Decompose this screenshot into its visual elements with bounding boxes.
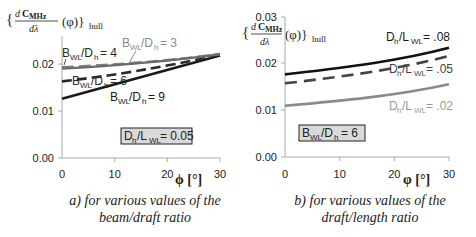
svg-text:WL: WL [411,37,424,46]
svg-text:WL: WL [414,69,427,78]
svg-text:h: h [142,97,146,106]
label-dh-lwl-02: D h /L WL = .02 [389,99,453,115]
chart-a: { d C MHz dλ (φ)} hull 0.02 0.01 0.00 0 … [6,8,226,187]
svg-text:B: B [72,74,80,88]
chart-a-xtick: 30 [214,168,226,180]
chart-b-annotation: B WL /D h = 6 [299,125,365,142]
chart-b-caption-line2: draft/length ratio [270,209,470,226]
chart-b-caption-line1: b) for various values of the [270,192,470,209]
chart-a-xtick: 0 [59,168,65,180]
chart-b-caption: b) for various values of the draft/lengt… [270,192,470,226]
svg-text:= .02: = .02 [426,99,453,113]
svg-text:B: B [62,46,70,60]
svg-text:= 9: = 9 [148,90,165,104]
svg-text:dλ: dλ [260,36,270,47]
svg-text:= .05: = .05 [426,62,453,76]
svg-text:= 6: = 6 [341,126,358,140]
svg-text:{: { [6,11,13,27]
chart-a-caption: a) for various values of the beam/draft … [40,192,250,226]
svg-text:= .08: = .08 [423,30,450,44]
svg-text:(φ)}: (φ)} [285,27,307,42]
svg-text:h: h [397,69,401,78]
svg-text:/L: /L [402,62,412,76]
chart-b: { d C MHz dλ (φ)} hull 0.03 0.02 0.01 0.… [242,11,455,187]
svg-text:h: h [104,81,108,90]
chart-a-xtick: 20 [161,168,173,180]
chart-a-xlabel: ϕ [°] [175,172,202,187]
chart-a-caption-line1: a) for various values of the [40,192,250,209]
chart-a-ytick: 0.00 [33,152,54,164]
svg-text:/D: /D [129,90,141,104]
chart-b-xtick: 10 [334,168,346,180]
chart-b-xtick: 30 [443,168,455,180]
svg-text:MHz: MHz [29,12,47,21]
chart-a-xtick: 10 [109,168,121,180]
svg-text:(φ)}: (φ)} [62,14,84,29]
chart-a-annotation: D h /L WL = 0.05 [121,128,194,145]
svg-text:= 4: = 4 [100,46,117,60]
chart-b-ytick: 0.02 [256,57,277,69]
svg-text:MHz: MHz [265,25,283,34]
label-dh-lwl-08: D h /L WL = .08 [386,30,450,46]
label-bwl-dh-9: B WL /D h = 9 [110,90,165,106]
svg-text:h: h [334,133,338,142]
chart-a-ytick: 0.01 [33,105,54,117]
chart-b-ytick: 0.01 [256,104,277,116]
svg-text:{: { [242,24,249,40]
svg-text:h: h [154,43,158,52]
label-bwl-dh-4: B WL /D h = 4 [62,46,117,62]
svg-text:= 6: = 6 [110,74,127,88]
chart-b-xtick: 20 [388,168,400,180]
svg-text:hull: hull [312,34,327,44]
svg-text:B: B [302,126,310,140]
svg-text:= 0.05: = 0.05 [160,129,194,143]
label-bwl-dh-6: B WL /D h = 6 [72,74,127,90]
svg-text:h: h [397,106,401,115]
chart-b-ylabel: { d C MHz dλ (φ)} hull [242,21,327,47]
chart-b-ytick: 0.00 [256,151,277,163]
chart-a-ylabel: { d C MHz dλ (φ)} hull [6,8,104,34]
label-dh-lwl-05: D h /L WL = .05 [389,62,453,78]
svg-text:hull: hull [89,21,104,31]
svg-text:/L: /L [402,99,412,113]
svg-text:h: h [132,136,136,145]
svg-text:h: h [94,53,98,62]
svg-text:/D: /D [141,36,153,50]
svg-text:d: d [15,8,21,19]
svg-text:B: B [110,90,118,104]
svg-text:/L: /L [399,30,409,44]
svg-text:/D: /D [321,126,333,140]
svg-text:WL: WL [414,106,427,115]
svg-text:= 3: = 3 [160,36,177,50]
series-dh-lwl-02 [285,84,449,106]
svg-text:h: h [394,37,398,46]
svg-text:B: B [122,36,130,50]
svg-text:/D: /D [91,74,103,88]
svg-text:/D: /D [81,46,93,60]
chart-b-xlabel: φ [°] [403,172,430,187]
svg-text:/L: /L [137,129,147,143]
svg-text:dλ: dλ [29,23,39,34]
chart-a-caption-line2: beam/draft ratio [40,209,250,226]
chart-b-ytick: 0.03 [256,11,277,23]
chart-a-ytick: 0.02 [33,58,54,70]
chart-b-xtick: 0 [282,168,288,180]
